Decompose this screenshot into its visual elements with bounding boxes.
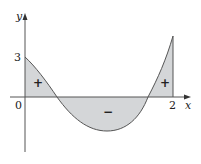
region-sign-plus-left: + [33,76,43,90]
y-axis-label: y [15,10,23,23]
y-tick-label: 3 [14,51,21,64]
y-axis-arrow-icon [23,13,28,20]
x-axis-label: x [185,99,192,112]
chart: y x 0 3 2 + − + [0,0,201,164]
region-sign-minus: − [103,105,113,119]
origin-label: 0 [15,99,22,112]
x-tick-label: 2 [169,99,176,112]
region-sign-plus-right: + [160,76,170,90]
